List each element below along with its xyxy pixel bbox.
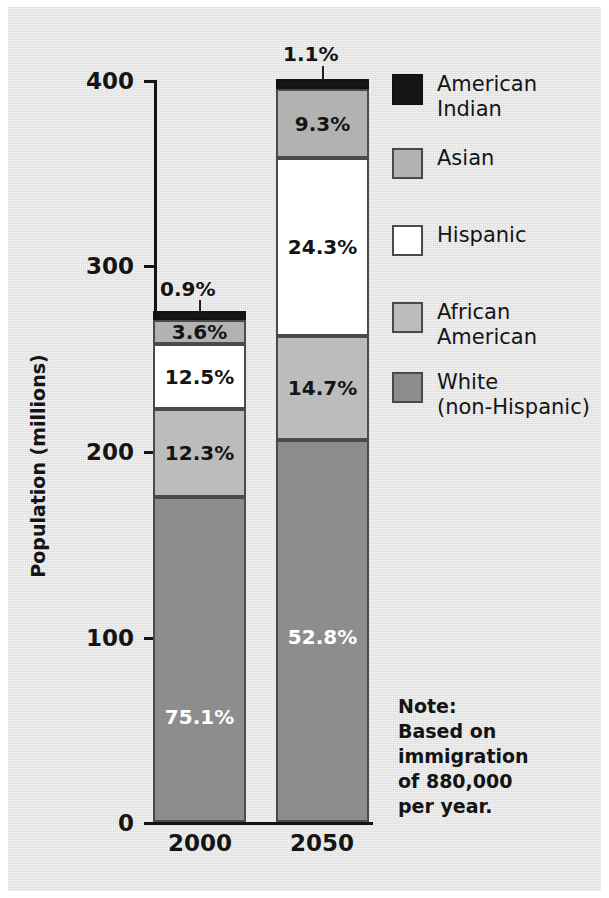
leader-line-2050-american-indian [322,66,324,80]
stacked-bar-2000[interactable]: 3.6% 12.5% 12.3% 75.1% [153,311,246,822]
chart-page: 400 300 200 100 0 Population (millions) … [0,0,609,898]
segment-2000-white[interactable]: 75.1% [153,497,246,822]
segment-2000-asian[interactable]: 3.6% [153,320,246,344]
legend-label-hispanic: Hispanic [437,223,526,248]
note-line-3: immigration [398,744,598,769]
segment-label-2050-white: 52.8% [288,625,357,649]
legend-label-american-indian-line1: American [437,72,537,96]
y-tick-label-0: 0 [70,810,134,836]
legend-label-american-indian-line2: Indian [437,97,502,121]
legend: AmericanIndian Asian Hispanic AfricanAme… [392,72,602,434]
y-tick-0 [144,822,155,825]
x-category-label-2000: 2000 [140,830,260,856]
legend-label-white-line1: White [437,370,498,394]
legend-swatch-asian [392,148,423,179]
legend-swatch-african-american [392,302,423,333]
chart-note: Note: Based on immigration of 880,000 pe… [398,694,598,819]
legend-label-african-american-line1: African [437,300,510,324]
y-tick-300 [144,265,155,268]
legend-swatch-white [392,372,423,403]
leader-line-2000-american-indian [199,300,201,314]
segment-label-2050-hispanic: 24.3% [288,235,357,259]
y-tick-400 [144,80,155,83]
y-tick-label-400: 400 [70,68,134,94]
legend-swatch-hispanic [392,225,423,256]
legend-item-african-american[interactable]: AfricanAmerican [392,300,602,350]
segment-2050-asian[interactable]: 9.3% [276,89,369,158]
legend-label-african-american-line2: American [437,325,537,349]
y-tick-label-100: 100 [70,625,134,651]
y-tick-label-200: 200 [70,439,134,465]
legend-label-african-american: AfricanAmerican [437,300,537,350]
y-axis-title: Population (millions) [27,336,49,596]
segment-label-2000-african-american: 12.3% [165,441,234,465]
segment-2050-american-indian[interactable] [276,79,369,89]
segment-label-2000-asian: 3.6% [172,320,227,344]
note-line-2: Based on [398,719,598,744]
segment-label-2000-hispanic: 12.5% [165,365,234,389]
callout-2050-american-indian: 1.1% [283,42,338,66]
segment-2050-white[interactable]: 52.8% [276,440,369,822]
legend-label-white: White(non-Hispanic) [437,370,590,420]
segment-label-2050-asian: 9.3% [295,112,350,136]
segment-2000-hispanic[interactable]: 12.5% [153,344,246,409]
segment-label-2050-african-american: 14.7% [288,376,357,400]
segment-2050-african-american[interactable]: 14.7% [276,336,369,440]
note-line-5: per year. [398,794,598,819]
x-category-label-2050: 2050 [262,830,382,856]
legend-label-white-line2: (non-Hispanic) [437,395,590,419]
y-tick-label-300: 300 [70,253,134,279]
note-line-4: of 880,000 [398,769,598,794]
legend-swatch-american-indian [392,74,423,105]
legend-label-asian: Asian [437,146,494,171]
note-line-1: Note: [398,694,598,719]
segment-2050-hispanic[interactable]: 24.3% [276,158,369,336]
stacked-bar-2050[interactable]: 9.3% 24.3% 14.7% 52.8% [276,79,369,822]
legend-label-american-indian: AmericanIndian [437,72,537,122]
segment-label-2000-white: 75.1% [165,705,234,729]
segment-2000-african-american[interactable]: 12.3% [153,409,246,497]
x-axis-line [154,822,373,825]
callout-2000-american-indian: 0.9% [160,277,215,301]
legend-item-hispanic[interactable]: Hispanic [392,223,602,256]
legend-item-american-indian[interactable]: AmericanIndian [392,72,602,122]
legend-item-asian[interactable]: Asian [392,146,602,179]
legend-item-white[interactable]: White(non-Hispanic) [392,370,602,420]
